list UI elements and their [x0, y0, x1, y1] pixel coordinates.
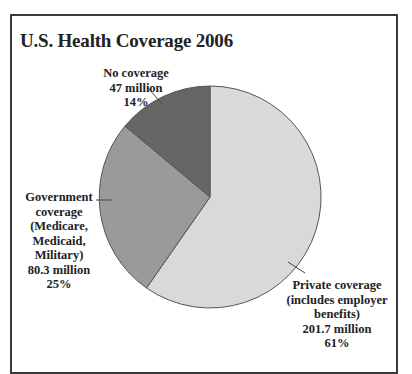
label-text: (Medicare, [14, 219, 104, 234]
label-text: benefits) [282, 307, 392, 322]
label-value: 201.7 million [282, 322, 392, 337]
label-percent: 25% [14, 277, 104, 292]
label-text: Government [14, 190, 104, 205]
label-percent: 14% [86, 95, 186, 110]
label-text: Private coverage [282, 278, 392, 293]
label-government: Government coverage (Medicare, Medicaid,… [14, 190, 104, 292]
label-value: 47 million [86, 81, 186, 96]
label-text: Medicaid, [14, 234, 104, 249]
label-no-coverage: No coverage 47 million 14% [86, 66, 186, 110]
label-value: 80.3 million [14, 263, 104, 278]
label-percent: 61% [282, 336, 392, 351]
label-text: (includes employer [282, 293, 392, 308]
label-text: coverage [14, 205, 104, 220]
label-text: No coverage [86, 66, 186, 81]
label-private: Private coverage (includes employer bene… [282, 278, 392, 351]
label-text: Military) [14, 248, 104, 263]
